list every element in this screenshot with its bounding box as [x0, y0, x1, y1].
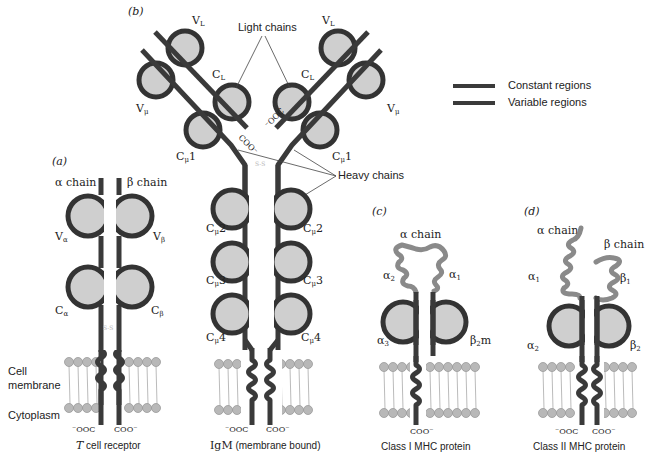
vl-left-label: VL [191, 14, 205, 28]
tcr-membrane [65, 358, 161, 413]
tcr-caption: T cell receptor [76, 439, 141, 452]
mhc1-c-terminus: COO⁻ [410, 427, 433, 436]
cmu1-right-label: Cμ1 [332, 150, 352, 164]
tcr-disulfide: S-S [103, 324, 113, 331]
tcr-c-terminus: COO⁻ [114, 425, 137, 434]
tcr-n-terminus: ⁻OOC [72, 425, 95, 434]
panel-d-label: (d) [524, 205, 540, 218]
mhc2-beta2-label: β2 [630, 339, 641, 353]
cell-membrane-label-line2: membrane [8, 379, 61, 391]
cl-left-label: CL [212, 68, 225, 82]
mhc2-beta-chain-label: β chain [604, 238, 644, 251]
mhc2-alpha-chain-label: α chain [537, 224, 578, 237]
heavy-chains-callout: Heavy chains [338, 169, 405, 181]
tcr-c-beta-domain [112, 267, 152, 307]
v-alpha-label: Vα [54, 230, 68, 244]
mhc2-alpha1-label: α1 [528, 270, 540, 284]
cmu3-right-label: Cμ3 [303, 274, 323, 288]
c-beta-label: Cβ [151, 304, 163, 318]
mhc2-n-terminus: ⁻OOC [555, 427, 578, 436]
mhc1-membrane [380, 363, 480, 418]
mhc1-alpha2-label: α2 [383, 269, 395, 283]
panel-d-class-ii-mhc: (d) α chain β chain α1 β1 α2 β2 ⁻OOC COO… [524, 205, 644, 452]
light-chains-callout: Light chains [238, 21, 297, 33]
mhc1-caption: Class I MHC protein [381, 441, 470, 452]
light-chains-pointer [236, 36, 290, 88]
cytoplasm-label: Cytoplasm [8, 409, 60, 421]
igm-cmu4-left-domain [213, 295, 251, 333]
legend-constant-label: Constant regions [508, 79, 592, 91]
vmu-left-label: Vμ [135, 102, 149, 116]
tcr-c-alpha-domain [68, 267, 108, 307]
cmu2-right-label: Cμ2 [303, 222, 323, 236]
cl-right-label: CL [301, 68, 314, 82]
vl-right-label: VL [321, 14, 335, 28]
immune-receptor-diagram: Constant regions Variable regions (a) α … [0, 0, 647, 458]
igm-caption: IgM (membrane bound) [210, 439, 320, 452]
panel-a-t-cell-receptor: (a) α chain β chain Vα Vβ Cα Cβ S-S ⁻OOC… [52, 155, 167, 452]
panel-a-label: (a) [52, 155, 67, 168]
tcr-v-alpha-domain [68, 196, 108, 236]
mhc2-beta1-domain [596, 258, 620, 301]
panel-c-class-i-mhc: (c) α chain α2 α1 α3 β2m COO⁻ Class I MH… [372, 205, 492, 452]
vmu-right-label: Vμ [386, 102, 400, 116]
cmu2-left-label: Cμ2 [206, 222, 226, 236]
mhc2-beta1-label: β1 [620, 272, 631, 286]
mhc2-c-terminus: COO⁻ [592, 427, 615, 436]
mhc2-caption: Class II MHC protein [533, 441, 625, 452]
legend-variable-label: Variable regions [508, 96, 587, 108]
mhc1-beta2m-label: β2m [470, 334, 492, 348]
v-beta-label: Vβ [152, 230, 165, 244]
mhc1-alpha1-alpha2-domain [396, 245, 446, 292]
legend-variable-swatch [453, 101, 495, 105]
igm-c-terminus: COO⁻ [266, 425, 289, 434]
igm-hinge-disulfide: S-S [255, 160, 265, 167]
mhc2-alpha1-domain [562, 228, 581, 298]
panel-c-label: (c) [372, 205, 387, 218]
cell-membrane-label-line1: Cell [8, 365, 27, 377]
c-alpha-label: Cα [55, 304, 68, 318]
mhc2-alpha2-label: α2 [527, 339, 539, 353]
cmu4-left-label: Cμ4 [206, 331, 226, 345]
cmu4-right-label: Cμ4 [301, 331, 321, 345]
mhc1-alpha-chain-label: α chain [400, 228, 441, 241]
panel-b-label: (b) [128, 5, 144, 18]
beta-chain-label: β chain [127, 176, 167, 189]
igm-n-terminus: ⁻OOC [225, 425, 248, 434]
igm-cmu4-right-domain [272, 295, 310, 333]
cmu1-left-label: Cμ1 [176, 150, 196, 164]
legend: Constant regions Variable regions [453, 79, 592, 108]
tcr-v-beta-domain [112, 196, 152, 236]
mhc1-alpha1-label: α1 [449, 268, 461, 282]
panel-b-igm: (b) VL VL Vμ Vμ CL CL Cμ1 Cμ1 COO⁻ ⁻OOC … [128, 5, 405, 452]
alpha-chain-label: α chain [55, 176, 96, 189]
legend-constant-swatch [453, 84, 495, 88]
